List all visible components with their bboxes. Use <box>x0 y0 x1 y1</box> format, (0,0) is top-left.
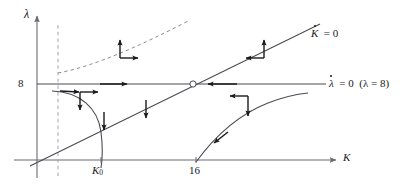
upper-dashed-trajectory <box>58 20 190 73</box>
right-saddle-path <box>196 93 308 162</box>
x-tick-label-16: 16 <box>189 165 200 176</box>
x-axis-label: K <box>343 152 350 163</box>
lambdadot-zero-label: λ = 0 (λ = 8) <box>329 78 389 89</box>
arrow-cross-upper-left <box>120 40 138 58</box>
phase-diagram-figure: λ K 8 K0 16 K = 0 λ = 0 (λ = 8) <box>0 0 400 189</box>
arrow-left-path-flow <box>60 91 79 92</box>
kdot-zero-label: K = 0 <box>311 28 338 39</box>
y-tick-label-8: 8 <box>18 78 24 89</box>
left-saddle-path <box>52 91 103 168</box>
phase-diagram-canvas <box>0 0 400 189</box>
y-axis-label: λ <box>24 8 29 20</box>
x-tick-label-k0: K0 <box>92 165 103 177</box>
equilibrium-point <box>190 81 196 87</box>
arrow-cross-lower-right <box>230 96 248 116</box>
